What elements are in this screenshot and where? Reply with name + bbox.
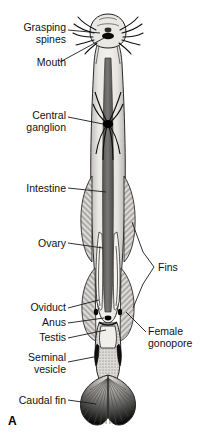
label-central-ganglion: Central ganglion bbox=[4, 110, 66, 133]
label-grasping-spines: Grasping spines bbox=[6, 22, 66, 45]
panel-letter: A bbox=[8, 414, 17, 428]
label-anus: Anus bbox=[4, 317, 66, 329]
label-intestine: Intestine bbox=[4, 183, 66, 195]
testis-region bbox=[100, 326, 117, 348]
posterior-lateral-fin-left bbox=[82, 268, 96, 341]
intestine bbox=[103, 58, 114, 312]
anterior-lateral-fin-right bbox=[124, 176, 135, 262]
anus bbox=[105, 316, 112, 321]
anterior-lateral-fin-left bbox=[81, 176, 92, 262]
label-seminal-vesicle: Seminal vesicle bbox=[4, 352, 66, 375]
label-caudal-fin: Caudal fin bbox=[4, 395, 66, 407]
label-mouth: Mouth bbox=[6, 57, 66, 69]
leader-fins-lower bbox=[133, 267, 154, 308]
label-ovary: Ovary bbox=[4, 238, 66, 250]
label-testis: Testis bbox=[4, 332, 66, 344]
leader-fins-upper bbox=[132, 222, 154, 267]
label-oviduct: Oviduct bbox=[4, 302, 66, 314]
label-fins: Fins bbox=[158, 262, 208, 274]
label-female-gonopore: Female gonopore bbox=[148, 326, 210, 349]
caudal-fin bbox=[80, 375, 135, 425]
leader-seminal-vesicle bbox=[68, 356, 99, 362]
posterior-lateral-fin-right bbox=[120, 268, 134, 341]
